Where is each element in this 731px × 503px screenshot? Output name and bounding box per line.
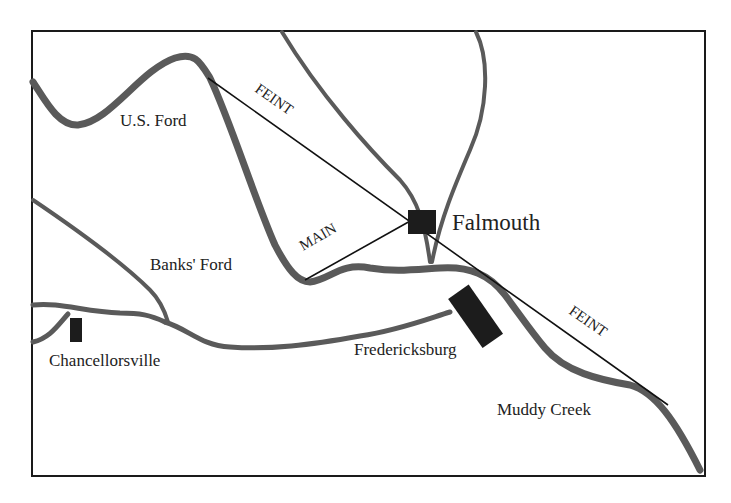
rapidan-river: [33, 304, 165, 322]
map-border-path: [32, 31, 705, 476]
label-fredericksburg: Fredericksburg: [354, 340, 457, 359]
label-us-ford: U.S. Ford: [120, 111, 187, 130]
rapidan-lower-branch: [33, 314, 68, 342]
label-falmouth: Falmouth: [452, 210, 541, 235]
falmouth-marker: [408, 210, 436, 234]
battle-map: U.S. Ford Banks' Ford Falmouth Chancello…: [0, 0, 731, 503]
fredericksburg-marker: [448, 285, 503, 348]
label-chancellorsville: Chancellorsville: [49, 351, 160, 370]
chancellorsville-marker: [70, 318, 82, 342]
label-banks-ford: Banks' Ford: [150, 255, 232, 274]
label-feint-north: FEINT: [252, 80, 296, 117]
label-muddy-creek: Muddy Creek: [497, 400, 591, 419]
label-feint-south: FEINT: [566, 302, 610, 339]
label-main: MAIN: [297, 220, 340, 254]
